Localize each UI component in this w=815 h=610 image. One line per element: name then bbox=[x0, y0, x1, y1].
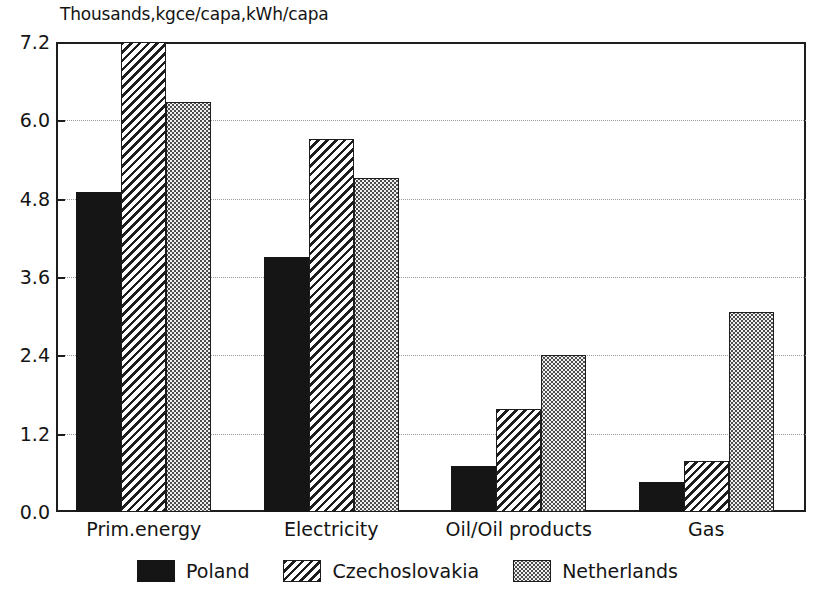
bars-layer bbox=[56, 42, 806, 512]
y-axis-tick-label: 0.0 bbox=[2, 501, 50, 523]
bar-poland-oil-oil-products bbox=[451, 466, 496, 512]
x-axis-tick-label: Prim.energy bbox=[86, 518, 201, 540]
chart-title: Thousands,kgce/capa,kWh/capa bbox=[60, 4, 329, 24]
y-axis-tick-mark bbox=[56, 434, 65, 436]
y-axis-tick-label: 3.6 bbox=[2, 266, 50, 288]
x-axis-tick-label: Gas bbox=[688, 518, 724, 540]
bar-netherlands-oil-oil-products bbox=[541, 355, 586, 512]
bar-chart: Thousands,kgce/capa,kWh/capa 0.01.22.43.… bbox=[0, 0, 815, 610]
bar-czechoslovakia-prim-energy bbox=[121, 42, 166, 512]
bar-netherlands-electricity bbox=[354, 178, 399, 512]
legend-swatch-netherlands bbox=[513, 560, 551, 582]
y-axis-tick-mark bbox=[56, 120, 65, 122]
y-axis-tick-label: 2.4 bbox=[2, 344, 50, 366]
y-axis-tick-mark bbox=[56, 199, 65, 201]
legend-item-poland[interactable]: Poland bbox=[137, 560, 249, 582]
y-axis-tick-label: 1.2 bbox=[2, 423, 50, 445]
bar-czechoslovakia-oil-oil-products bbox=[496, 409, 541, 512]
bar-czechoslovakia-electricity bbox=[309, 139, 354, 512]
legend-swatch-poland bbox=[137, 560, 175, 582]
legend-swatch-czechoslovakia bbox=[283, 560, 321, 582]
legend: PolandCzechoslovakiaNetherlands bbox=[0, 560, 815, 582]
bar-poland-electricity bbox=[264, 257, 309, 512]
bar-poland-prim-energy bbox=[76, 192, 121, 512]
legend-item-czechoslovakia[interactable]: Czechoslovakia bbox=[283, 560, 479, 582]
x-axis-tick-label: Electricity bbox=[284, 518, 378, 540]
y-axis-tick-label: 6.0 bbox=[2, 109, 50, 131]
x-axis: Prim.energyElectricityOil/Oil productsGa… bbox=[56, 518, 806, 552]
y-axis: 0.01.22.43.64.86.07.2 bbox=[0, 42, 50, 512]
y-axis-tick-mark bbox=[56, 355, 65, 357]
legend-item-netherlands[interactable]: Netherlands bbox=[513, 560, 678, 582]
y-axis-tick-mark bbox=[56, 277, 65, 279]
y-axis-tick-label: 7.2 bbox=[2, 31, 50, 53]
bar-poland-gas bbox=[639, 482, 684, 512]
y-axis-tick-label: 4.8 bbox=[2, 188, 50, 210]
bar-netherlands-prim-energy bbox=[166, 102, 211, 512]
legend-label-czechoslovakia: Czechoslovakia bbox=[332, 560, 479, 582]
legend-label-poland: Poland bbox=[186, 560, 249, 582]
bar-czechoslovakia-gas bbox=[684, 461, 729, 512]
bar-netherlands-gas bbox=[729, 312, 774, 512]
legend-label-netherlands: Netherlands bbox=[562, 560, 678, 582]
x-axis-tick-label: Oil/Oil products bbox=[446, 518, 592, 540]
